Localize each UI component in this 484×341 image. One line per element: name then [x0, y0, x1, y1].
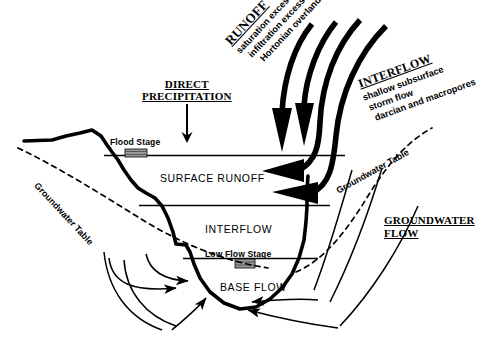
label-direct-precipitation-line2: PRECIPITATION — [142, 90, 232, 102]
runoff-arrowhead-4 — [272, 182, 318, 204]
runoff-arrowhead-1 — [272, 108, 292, 152]
runoff-arrow-3 — [300, 20, 360, 170]
label-low-flow-stage: Low Flow Stage — [205, 250, 271, 260]
flood-stage-marker — [125, 149, 147, 157]
label-groundwater-flow-line2: FLOW — [384, 227, 475, 240]
runoff-arrowhead-3 — [262, 159, 304, 182]
label-zone-base-flow: BASE FLOW — [220, 282, 287, 294]
baseflow-arrow-bottom-right-1 — [252, 299, 318, 302]
low-flow-stage-marker — [235, 259, 255, 268]
label-flood-stage: Flood Stage — [110, 138, 160, 148]
runoff-arrowhead-2 — [295, 103, 314, 146]
label-groundwater-flow: GROUNDWATER FLOW — [384, 214, 475, 240]
label-groundwater-flow-line1: GROUNDWATER — [384, 214, 475, 227]
baseflow-arrow-bottom-right-2 — [248, 310, 338, 328]
baseflow-arrow-bottom-left — [172, 298, 206, 330]
baseflow-arrow-left-lower — [146, 254, 188, 281]
groundwater-flowline-left-2 — [124, 260, 176, 326]
label-direct-precipitation-line1: DIRECT — [142, 78, 232, 90]
figure-canvas: DIRECT PRECIPITATION RUNOFF saturation e… — [0, 0, 484, 341]
baseflow-arrow-left-upper — [109, 258, 176, 289]
label-direct-precipitation: DIRECT PRECIPITATION — [142, 78, 232, 103]
label-zone-surface-runoff: SURFACE RUNOFF — [160, 173, 265, 185]
label-zone-interflow: INTERFLOW — [205, 224, 272, 236]
